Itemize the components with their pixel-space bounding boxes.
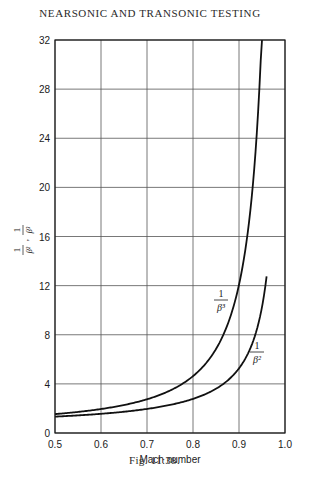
y-tick-label: 0	[44, 428, 50, 439]
y-tick-label: 28	[39, 84, 51, 95]
grid-lines	[55, 40, 285, 433]
svg-text:β³: β³	[25, 226, 34, 234]
y-tick-label: 20	[39, 182, 51, 193]
y-tick-label: 12	[39, 281, 51, 292]
x-tick-label: 0.6	[94, 439, 108, 450]
x-tick-label: 0.8	[186, 439, 200, 450]
svg-text:1: 1	[255, 340, 260, 351]
data-curves	[55, 40, 267, 417]
svg-text:β²: β²	[25, 246, 34, 254]
y-axis-label: 1 β² , 1 β³	[12, 225, 34, 255]
y-tick-label: 32	[39, 35, 51, 46]
y-tick-label: 16	[39, 232, 51, 243]
svg-text:β²: β²	[252, 354, 262, 365]
y-tick-label: 24	[39, 133, 51, 144]
curve-inv-beta-cubed	[55, 40, 262, 414]
y-tick-label: 4	[44, 379, 50, 390]
label-inv-beta-cubed: 1 β³	[214, 288, 228, 313]
svg-text:β³: β³	[216, 302, 226, 313]
y-tick-label: 8	[44, 330, 50, 341]
svg-text:1: 1	[12, 248, 22, 253]
curve-inv-beta-squared	[55, 276, 267, 416]
svg-text:1: 1	[219, 288, 224, 299]
x-tick-label: 1.0	[278, 439, 292, 450]
x-tick-label: 0.9	[232, 439, 246, 450]
svg-text:1: 1	[12, 228, 22, 233]
figure-caption: Fig. 11:38.	[0, 454, 309, 466]
x-tick-labels: 0.50.60.70.80.91.0	[48, 439, 292, 450]
x-tick-label: 0.7	[140, 439, 154, 450]
chart: 0.50.60.70.80.91.0 048121620242832 Mach …	[0, 0, 309, 482]
x-tick-label: 0.5	[48, 439, 62, 450]
svg-text:,: ,	[20, 239, 30, 241]
y-tick-labels: 048121620242832	[39, 35, 51, 439]
